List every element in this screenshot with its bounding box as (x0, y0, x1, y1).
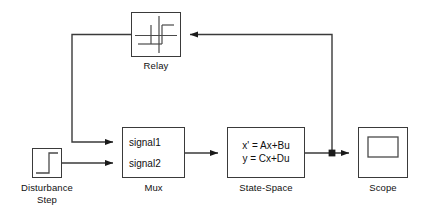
feedback-branch-point (329, 150, 336, 157)
relay-block[interactable] (131, 12, 181, 57)
step-block-label-line2: Step (7, 194, 87, 206)
mux-input-1-label: signal1 (129, 137, 161, 148)
scope-block[interactable] (358, 127, 408, 178)
block-diagram-canvas: Relay Disturbance Step signal1 signal2 M… (0, 0, 424, 220)
state-space-block[interactable]: x' = Ax+Bu y = Cx+Du (227, 127, 305, 178)
mux-block-label: Mux (113, 182, 194, 194)
step-block[interactable] (32, 148, 62, 178)
scope-screen-icon (359, 128, 407, 177)
mux-input-2-label: signal2 (129, 158, 161, 169)
step-signal-icon (33, 149, 61, 177)
state-space-block-label: State-Space (226, 182, 306, 194)
step-block-label-line1: Disturbance (7, 182, 87, 194)
state-space-equation-line1: x' = Ax+Bu (228, 139, 304, 152)
state-space-equation-line2: y = Cx+Du (228, 152, 304, 165)
scope-block-label: Scope (343, 182, 423, 194)
relay-hysteresis-icon (132, 13, 180, 56)
mux-block[interactable]: signal1 signal2 (122, 127, 185, 178)
wire-relay-to-mux-signal1 (72, 35, 131, 143)
relay-block-label: Relay (116, 60, 196, 72)
